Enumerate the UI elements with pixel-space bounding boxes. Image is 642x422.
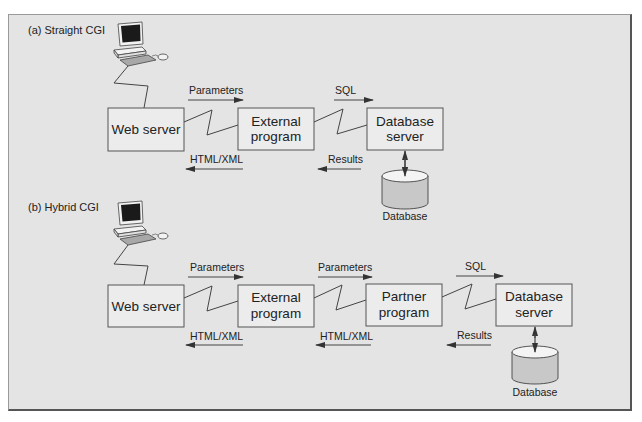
parameters-label-2: Parameters xyxy=(318,261,372,273)
parameters-label-1: Parameters xyxy=(190,261,244,273)
connection-partner-dbserver xyxy=(442,284,496,309)
svg-text:External: External xyxy=(251,290,301,305)
svg-text:Database: Database xyxy=(376,114,434,129)
svg-text:Database: Database xyxy=(505,289,563,304)
web-server-node: Web server xyxy=(108,108,184,151)
html-xml-label-1: HTML/XML xyxy=(190,330,243,342)
web-server-node: Web server xyxy=(108,285,184,327)
svg-text:server: server xyxy=(386,129,424,144)
partner-program-node: Partner program xyxy=(366,284,442,326)
client-connection xyxy=(114,66,148,108)
results-label: Results xyxy=(328,153,363,165)
client-connection xyxy=(114,245,148,285)
connection-external-partner xyxy=(314,285,366,310)
svg-text:program: program xyxy=(379,305,429,320)
database-server-node: Database server xyxy=(367,108,443,150)
svg-text:program: program xyxy=(251,306,301,321)
connection-web-external xyxy=(184,286,238,311)
svg-text:Partner: Partner xyxy=(382,289,427,304)
svg-text:Web server: Web server xyxy=(112,122,181,137)
external-program-node: External program xyxy=(238,108,314,150)
parameters-label: Parameters xyxy=(189,84,243,96)
client-computer-icon xyxy=(114,201,168,245)
section-b-label: (b) Hybrid CGI xyxy=(28,201,99,213)
html-xml-label-2: HTML/XML xyxy=(320,330,373,342)
database-server-node: Database server xyxy=(496,284,572,326)
svg-text:Web server: Web server xyxy=(112,299,181,314)
results-label: Results xyxy=(457,329,492,341)
cgi-diagram: (a) Straight CGI Web server External pro… xyxy=(0,0,642,422)
client-computer-icon xyxy=(114,22,168,66)
sql-label: SQL xyxy=(465,260,486,272)
sql-label: SQL xyxy=(335,84,356,96)
external-program-node: External program xyxy=(238,285,314,327)
database-label: Database xyxy=(383,210,428,222)
section-a-straight-cgi: (a) Straight CGI Web server External pro… xyxy=(28,22,443,222)
svg-text:server: server xyxy=(515,305,553,320)
html-xml-label: HTML/XML xyxy=(190,153,243,165)
svg-text:External: External xyxy=(251,114,301,129)
svg-text:program: program xyxy=(251,129,301,144)
database-label: Database xyxy=(513,386,558,398)
section-b-hybrid-cgi: (b) Hybrid CGI Web server External progr… xyxy=(28,201,572,398)
connection-external-dbserver xyxy=(314,109,367,134)
connection-web-external xyxy=(184,110,238,135)
section-a-label: (a) Straight CGI xyxy=(28,24,105,36)
